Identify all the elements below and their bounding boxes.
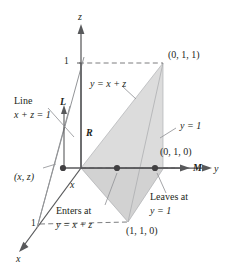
z-axis-label: z: [78, 12, 82, 22]
line-callout-title: Line: [14, 96, 32, 106]
leaves-at-equation: y = 1: [150, 206, 171, 216]
y-axis-label: y: [214, 164, 218, 174]
x-axis-tick-label-one: 1: [31, 219, 36, 229]
z-axis-arrowhead: [78, 24, 85, 34]
dot-xz-point: [60, 165, 66, 171]
dot-enters-at: [114, 165, 120, 171]
generator-rays: [37, 57, 84, 228]
y-axis-arrowhead: [202, 165, 212, 172]
dot-leaves-at: [152, 165, 158, 171]
x-distance-label: x: [70, 180, 74, 190]
segment-M-label: M: [193, 163, 202, 173]
enters-at-label: Enters at: [56, 206, 91, 216]
x-axis-arrowhead: [19, 242, 29, 252]
enters-at-equation: y = x + z: [56, 220, 92, 230]
point-label-0-1-0: (0, 1, 0): [160, 147, 192, 157]
wall-equation-label: y = 1: [180, 121, 201, 131]
figure-root: z y x 1 1 (0, 1, 1) (0, 1, 0) (1, 1, 0) …: [0, 0, 226, 267]
point-label-x-z: (x, z): [14, 172, 34, 182]
point-label-1-1-0: (1, 1, 0): [126, 226, 158, 236]
segment-M-arrowhead: [180, 165, 190, 172]
segment-L-label: L: [60, 97, 66, 107]
segment-R-label: R: [86, 128, 93, 138]
line-callout-equation: x + z = 1: [14, 110, 51, 120]
plane-equation-label: y = x + z: [90, 79, 126, 89]
leaves-at-label: Leaves at: [150, 192, 188, 202]
leader-line-equation: [48, 108, 74, 137]
x-axis-label: x: [16, 254, 20, 264]
leader-leaves-at: [157, 173, 166, 193]
point-label-0-1-1: (0, 1, 1): [168, 50, 200, 60]
z-axis-tick-label-one: 1: [64, 57, 69, 67]
